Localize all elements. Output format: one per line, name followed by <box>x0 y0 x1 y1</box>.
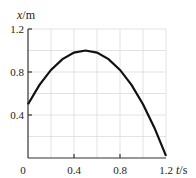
y-axis-label: x/m <box>16 8 36 22</box>
position-time-chart: x/m 1.2 0.8 0.4 0 0.4 0.8 1.2 t/s <box>0 0 196 178</box>
y-tick-0-8: 0.8 <box>10 66 24 78</box>
y-tick-0-4: 0.4 <box>10 109 24 121</box>
x-axis-label: t/s <box>176 163 188 177</box>
grid <box>28 29 166 158</box>
y-tick-1-2: 1.2 <box>10 23 24 35</box>
x-tick-0-4: 0.4 <box>67 164 81 176</box>
x-tick-1-2: 1.2 <box>159 164 173 176</box>
x-tick-0-8: 0.8 <box>113 164 127 176</box>
origin-label: 0 <box>20 164 26 176</box>
